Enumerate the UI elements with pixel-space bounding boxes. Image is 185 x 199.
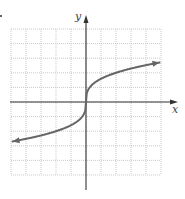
x-axis-label: x [172,104,178,115]
bullet-mark [0,15,2,17]
y-axis-label: y [75,11,81,22]
graph-plot [0,0,185,199]
y-axis-arrow-icon [84,15,89,23]
axes [10,15,178,190]
curve-arrow-left-icon [13,137,20,143]
curve-arrow-right-icon [152,61,159,67]
